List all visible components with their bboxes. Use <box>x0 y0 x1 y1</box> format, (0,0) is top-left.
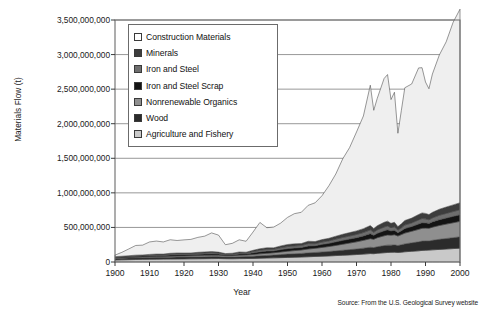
legend-item: Agriculture and Fishery <box>134 126 272 142</box>
legend-swatch-icon <box>134 114 142 122</box>
legend-item: Nonrenewable Organics <box>134 94 272 110</box>
legend-item: Iron and Steel Scrap <box>134 78 272 94</box>
x-axis-title: Year <box>0 287 484 297</box>
legend-swatch-icon <box>134 130 142 138</box>
legend-swatch-icon <box>134 33 142 41</box>
legend-swatch-icon <box>134 65 142 73</box>
source-note: Source: From the U.S. Geological Survey … <box>338 299 478 306</box>
legend-swatch-icon <box>134 82 142 90</box>
legend-item: Iron and Steel <box>134 61 272 77</box>
x-axis-tick-labels: 1900191019201930194019501960197019801990… <box>0 268 484 282</box>
legend-item-label: Iron and Steel <box>146 64 199 74</box>
legend-item-label: Agriculture and Fishery <box>146 129 233 139</box>
legend-swatch-icon <box>134 98 142 106</box>
legend-item-label: Minerals <box>146 48 178 58</box>
legend-item-label: Wood <box>146 113 168 123</box>
legend-item-label: Construction Materials <box>146 32 230 42</box>
legend-item: Minerals <box>134 45 272 61</box>
chart-legend: Construction MaterialsMineralsIron and S… <box>128 24 278 147</box>
legend-item: Construction Materials <box>134 29 272 45</box>
legend-swatch-icon <box>134 49 142 57</box>
materials-flow-figure: Materials Flow (t) 3,500,000,0003,000,00… <box>0 0 484 314</box>
legend-item: Wood <box>134 110 272 126</box>
x-axis-tick-label: 2000 <box>440 268 480 278</box>
legend-item-label: Nonrenewable Organics <box>146 97 237 107</box>
legend-item-label: Iron and Steel Scrap <box>146 81 223 91</box>
